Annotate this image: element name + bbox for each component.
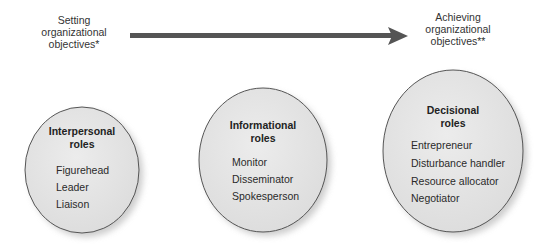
role-title-line: roles: [403, 117, 503, 130]
informational-roles-title: Informational roles: [213, 119, 313, 145]
role-title-line: Informational: [213, 119, 313, 132]
role-title-line: Interpersonal: [32, 125, 132, 138]
role-item: Disseminator: [232, 173, 293, 185]
role-item: Disturbance handler: [411, 157, 505, 169]
role-item: Negotiator: [411, 192, 459, 204]
progress-arrow: [130, 27, 408, 45]
end-label-line: organizational: [403, 23, 513, 35]
start-label-line: organizational: [19, 26, 129, 38]
end-objective-label: Achieving organizational objectives**: [403, 11, 513, 47]
role-item: Monitor: [232, 156, 267, 168]
end-label-line: objectives**: [403, 35, 513, 47]
role-item: Figurehead: [56, 164, 109, 176]
start-label-line: Setting: [19, 14, 129, 26]
end-label-line: Achieving: [403, 11, 513, 23]
start-objective-label: Setting organizational objectives*: [19, 14, 129, 50]
role-title-line: roles: [32, 138, 132, 151]
role-title-line: Decisional: [403, 104, 503, 117]
role-title-line: roles: [213, 132, 313, 145]
role-item: Resource allocator: [411, 175, 499, 187]
decisional-roles-ellipse: [383, 70, 523, 232]
interpersonal-roles-title: Interpersonal roles: [32, 125, 132, 151]
decisional-roles-title: Decisional roles: [403, 104, 503, 130]
role-item: Entrepreneur: [411, 139, 472, 151]
role-item: Leader: [56, 181, 89, 193]
start-label-line: objectives*: [19, 38, 129, 50]
role-item: Liaison: [56, 198, 89, 210]
role-item: Spokesperson: [232, 190, 299, 202]
